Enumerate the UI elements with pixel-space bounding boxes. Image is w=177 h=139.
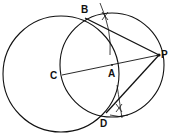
label-d: D (100, 119, 107, 129)
label-a: A (108, 69, 115, 79)
geometry-diagram: B C A P D (0, 0, 177, 139)
label-b: B (81, 5, 88, 15)
label-c: C (50, 71, 57, 81)
construction-arc-lower (117, 85, 122, 118)
tangent-pd (106, 55, 159, 113)
tangent-pb (85, 18, 159, 55)
cross-mark-lower (116, 104, 122, 112)
construction-arc-upper (100, 3, 110, 55)
point-a (111, 64, 113, 66)
label-p: P (161, 50, 168, 60)
diagram-canvas (0, 0, 177, 139)
